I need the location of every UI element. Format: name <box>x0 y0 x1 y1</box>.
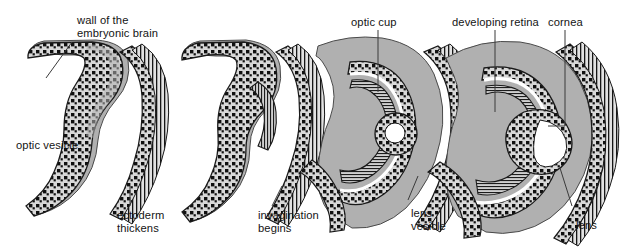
stage-1-artwork <box>26 40 169 224</box>
stage-2-artwork <box>182 40 325 226</box>
label-wall-of-brain-line2: embryonic brain <box>77 27 158 40</box>
label-optic-cup: optic cup <box>351 16 397 29</box>
label-lens: lens <box>576 219 597 232</box>
eye-development-diagram: wall of the embryonic brain optic vesicl… <box>0 0 624 252</box>
label-lens-vesicle-line2: vesicle <box>411 220 446 233</box>
label-ectoderm-line1: ectoderm <box>117 209 164 222</box>
label-ectoderm-line2: thickens <box>117 222 159 235</box>
label-developing-retina: developing retina <box>452 16 539 29</box>
label-cornea: cornea <box>548 16 583 29</box>
label-optic-vesicle: optic vesicle <box>16 139 78 152</box>
label-wall-of-brain-line1: wall of the <box>77 14 128 27</box>
stage-4-artwork <box>428 41 619 246</box>
label-invagination-line2: begins <box>258 222 292 235</box>
label-invagination-line1: invagination <box>258 209 319 222</box>
label-lens-vesicle-line1: lens <box>411 207 432 220</box>
